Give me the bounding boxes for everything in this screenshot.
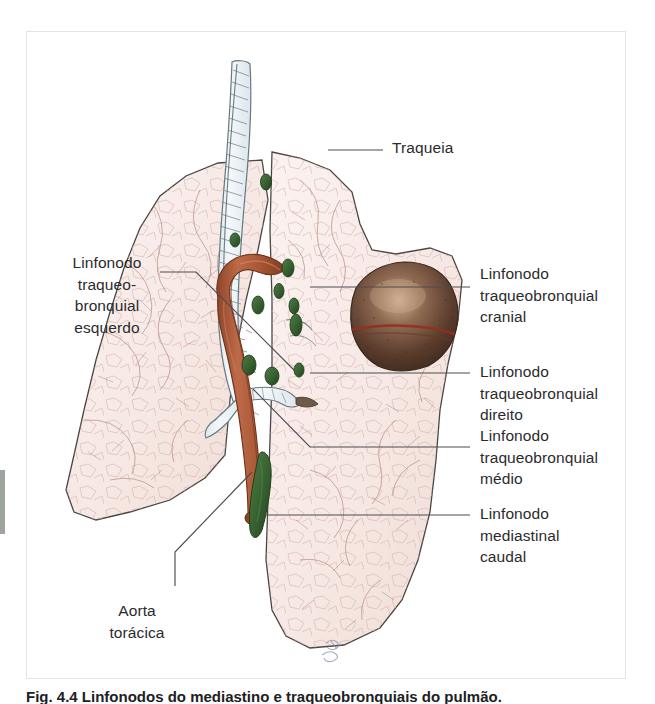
figure-frame [26, 31, 626, 679]
label-aorta-toracica: Aorta torácica [82, 600, 192, 643]
label-linfonodo-mediastinal-caudal: Linfonodo mediastinal caudal [480, 503, 635, 568]
figure-caption: Fig. 4.4 Linfonodos do mediastino e traq… [26, 688, 636, 704]
label-linfonodo-traqueobronquial-esquerdo: Linfonodo traqueo- bronquial esquerdo [47, 252, 167, 338]
figure-root: Traqueia Linfonodo traqueo- bronquial es… [0, 0, 655, 704]
label-linfonodo-traqueobronquial-medio: Linfonodo traqueobronquial médio [480, 425, 635, 490]
label-linfonodo-traqueobronquial-cranial: Linfonodo traqueobronquial cranial [480, 263, 635, 328]
label-traqueia: Traqueia [392, 137, 453, 159]
scan-edge-artifact [0, 470, 5, 534]
label-linfonodo-traqueobronquial-direito: Linfonodo traqueobronquial direito [480, 361, 635, 426]
